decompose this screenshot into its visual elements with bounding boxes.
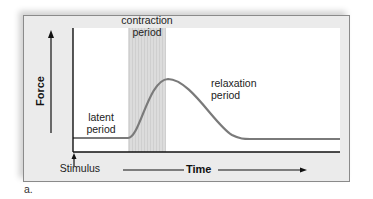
time-arrowhead-icon [300, 168, 307, 173]
contraction-label-line1: contraction [112, 14, 182, 26]
latent-label-line2: period [79, 123, 123, 135]
stimulus-arrowhead-icon [72, 153, 77, 159]
contraction-period-label: contraction period [112, 14, 182, 38]
relaxation-label-line1: relaxation [211, 77, 271, 89]
latent-label-line1: latent [79, 111, 123, 123]
relaxation-period-label: relaxation period [211, 77, 271, 101]
relaxation-label-line2: period [211, 89, 271, 101]
force-arrowhead-icon [48, 30, 54, 38]
y-axis-label: Force [34, 71, 46, 111]
figure-sublabel: a. [24, 183, 33, 195]
contraction-label-line2: period [112, 26, 182, 38]
stimulus-label: Stimulus [55, 162, 105, 174]
latent-period-label: latent period [79, 111, 123, 135]
x-axis-label: Time [186, 163, 211, 175]
